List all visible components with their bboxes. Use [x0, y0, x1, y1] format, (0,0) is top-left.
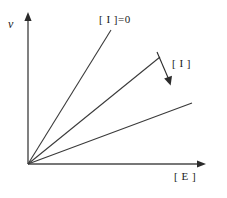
kinetics-chart: v [ E ] [ I ]=0 [ I ] [0, 0, 227, 198]
plot-canvas [0, 0, 227, 198]
inhibitor-annotation-arrow-shaft [157, 52, 168, 79]
data-line-high-inhibitor [28, 103, 192, 164]
data-line-no-inhibitor [28, 30, 111, 164]
x-axis-arrowhead [197, 160, 206, 167]
annotation-inhibitor-label: [ I ] [172, 58, 191, 69]
y-axis-arrowhead [24, 12, 31, 21]
x-axis-label: [ E ] [174, 171, 196, 182]
annotation-no-inhibitor-label: [ I ]=0 [99, 14, 131, 25]
data-line-low-inhibitor [28, 57, 160, 164]
y-axis-label: v [8, 18, 13, 30]
inhibitor-annotation-arrowhead [164, 76, 172, 86]
